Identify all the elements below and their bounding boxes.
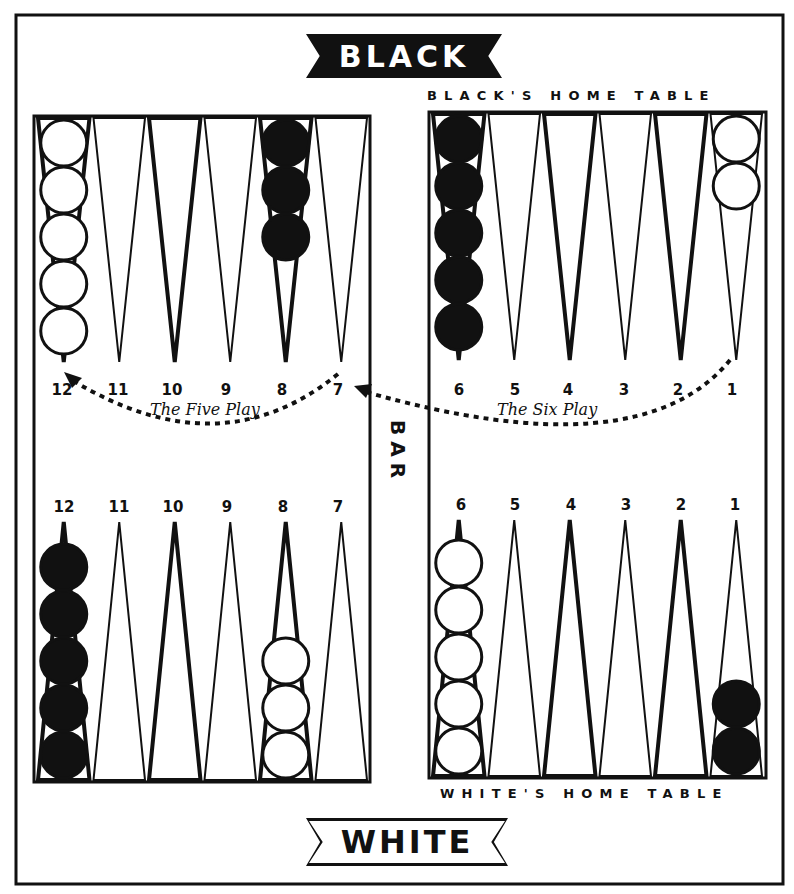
point-label: 7 <box>323 498 353 516</box>
point-3-triangle[interactable] <box>600 114 652 360</box>
point-4-triangle[interactable] <box>544 114 596 360</box>
white-home-table-label: WHITE'S HOME TABLE <box>440 786 729 801</box>
point-7-triangle[interactable] <box>316 118 368 362</box>
point-label: 6 <box>446 496 476 514</box>
point-label: 4 <box>553 381 583 399</box>
white-checker[interactable] <box>436 681 482 727</box>
black-banner: BLACK <box>306 34 502 78</box>
point-label: 10 <box>158 498 188 516</box>
point-label: 11 <box>104 498 134 516</box>
point-2-triangle[interactable] <box>655 520 707 776</box>
point-label: 1 <box>717 381 747 399</box>
backgammon-diagram: BLACK WHITE BLACK'S HOME TABLE WHITE'S H… <box>0 0 794 894</box>
black-checker[interactable] <box>263 214 309 260</box>
point-label: 5 <box>500 381 530 399</box>
black-checker[interactable] <box>436 257 482 303</box>
five-play-label: The Five Play <box>150 400 260 419</box>
black-checker[interactable] <box>436 304 482 350</box>
point-10-triangle[interactable] <box>149 118 201 362</box>
point-label: 2 <box>663 381 693 399</box>
black-checker[interactable] <box>41 544 87 590</box>
point-label: 8 <box>268 498 298 516</box>
point-label: 12 <box>47 381 77 399</box>
black-checker[interactable] <box>41 685 87 731</box>
right-board-frame <box>429 112 766 778</box>
black-checker[interactable] <box>713 728 759 774</box>
black-checker[interactable] <box>263 167 309 213</box>
point-label: 2 <box>666 496 696 514</box>
white-checker[interactable] <box>41 120 87 166</box>
point-label: 9 <box>212 498 242 516</box>
six-play-label: The Six Play <box>497 400 597 419</box>
white-checker[interactable] <box>263 685 309 731</box>
point-9-triangle[interactable] <box>205 522 257 780</box>
point-label: 12 <box>49 498 79 516</box>
point-label: 10 <box>157 381 187 399</box>
white-checker[interactable] <box>41 261 87 307</box>
point-label: 3 <box>609 381 639 399</box>
white-checker[interactable] <box>41 167 87 213</box>
black-checker[interactable] <box>436 210 482 256</box>
point-3-triangle[interactable] <box>600 520 652 776</box>
white-checker[interactable] <box>713 163 759 209</box>
white-banner: WHITE <box>309 821 505 863</box>
point-10-triangle[interactable] <box>149 522 201 780</box>
white-checker[interactable] <box>436 540 482 586</box>
black-checker[interactable] <box>41 591 87 637</box>
bar-label: BAR <box>386 412 410 492</box>
point-11-triangle[interactable] <box>94 118 146 362</box>
point-9-triangle[interactable] <box>205 118 257 362</box>
black-checker[interactable] <box>41 732 87 778</box>
black-checker[interactable] <box>713 681 759 727</box>
point-7-triangle[interactable] <box>316 522 368 780</box>
point-label: 8 <box>267 381 297 399</box>
left-board-frame <box>34 116 370 782</box>
point-11-triangle[interactable] <box>94 522 146 780</box>
black-home-table-label: BLACK'S HOME TABLE <box>427 88 716 103</box>
black-checker[interactable] <box>436 163 482 209</box>
white-checker[interactable] <box>436 728 482 774</box>
white-checker[interactable] <box>436 587 482 633</box>
point-label: 7 <box>323 381 353 399</box>
point-2-triangle[interactable] <box>655 114 707 360</box>
point-label: 3 <box>611 496 641 514</box>
black-checker[interactable] <box>263 120 309 166</box>
white-checker[interactable] <box>41 214 87 260</box>
white-checker[interactable] <box>263 638 309 684</box>
black-checker[interactable] <box>41 638 87 684</box>
point-5-triangle[interactable] <box>489 114 541 360</box>
black-checker[interactable] <box>436 116 482 162</box>
white-checker[interactable] <box>713 116 759 162</box>
point-4-triangle[interactable] <box>544 520 596 776</box>
point-label: 6 <box>444 381 474 399</box>
white-checker[interactable] <box>436 634 482 680</box>
point-label: 4 <box>556 496 586 514</box>
point-label: 9 <box>211 381 241 399</box>
white-checker[interactable] <box>263 732 309 778</box>
point-label: 11 <box>103 381 133 399</box>
point-label: 1 <box>720 496 750 514</box>
white-checker[interactable] <box>41 308 87 354</box>
point-5-triangle[interactable] <box>489 520 541 776</box>
point-label: 5 <box>500 496 530 514</box>
